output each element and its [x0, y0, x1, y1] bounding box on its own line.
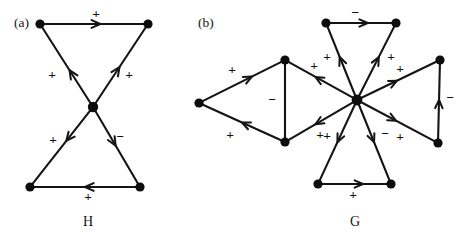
h-edge-c-tl [41, 26, 92, 106]
h-bottom-right [135, 182, 144, 191]
figure-root: ++++−+(a)H++−++−++++−+−+(b)G [0, 0, 462, 244]
g-bottom-left [313, 179, 322, 188]
g-edge-leftupper-leftlower-sign-label: − [268, 92, 276, 107]
g-edge-hub-topleft [327, 25, 357, 98]
nodes-layer [25, 18, 444, 191]
h-edge-c-tr-sign-label: + [125, 67, 133, 82]
h-edge-br-bl-sign-label: + [84, 189, 92, 204]
panel-tag-g: (b) [198, 15, 214, 30]
g-edge-hub-rightlower-sign-label: + [396, 129, 404, 144]
g-edge-hub-topright-sign-label: + [387, 49, 395, 64]
g-top-left [321, 18, 330, 27]
g-edge-bottomleft-bottomright-sign-label: + [349, 187, 357, 202]
signed-digraph-figure: ++++−+(a)H++−++−++++−+−+(b)G [0, 0, 462, 244]
g-left-lower [280, 137, 289, 146]
graph-name-g: G [350, 214, 360, 229]
panel-tag-h: (a) [14, 15, 29, 30]
g-edge-topleft-topright-sign-label: − [351, 5, 359, 20]
graph-name-h: H [83, 214, 93, 229]
g-edge-hub-topleft-sign-label: + [323, 49, 331, 64]
h-edge-c-bl [31, 109, 92, 186]
h-edge-tl-tr-sign-label: + [92, 6, 100, 21]
g-edge-hub-bottomleft-sign-label: + [323, 128, 331, 143]
h-edge-c-tl-sign-label: + [48, 67, 56, 82]
g-edge-hub-leftupper-sign-label: + [310, 58, 318, 73]
g-top-right [391, 18, 400, 27]
g-right-upper [435, 55, 444, 64]
g-left-upper [280, 55, 289, 64]
g-edge-hub-bottomright-sign-label: − [381, 126, 389, 141]
h-edge-c-br-sign-label: − [116, 129, 124, 144]
h-edge-c-br [94, 109, 139, 186]
h-center [88, 102, 98, 112]
g-edge-hub-leftupper [287, 61, 356, 99]
g-far-left [194, 98, 203, 107]
g-edge-leftlower-farleft-sign-label: + [226, 127, 234, 142]
h-edge-c-tr [94, 26, 147, 106]
g-edge-hub-rightupper-sign-label: + [396, 61, 404, 76]
g-right-lower [433, 138, 442, 147]
h-top-left [35, 19, 44, 28]
g-bottom-right [386, 179, 395, 188]
h-edge-c-bl-sign-label: + [49, 132, 57, 147]
g-edge-farleft-leftupper-sign-label: + [228, 62, 236, 77]
h-top-right [143, 19, 152, 28]
g-hub [352, 95, 363, 106]
h-bottom-left [25, 182, 34, 191]
g-edge-rightlower-rightupper-sign-label: − [446, 90, 454, 105]
